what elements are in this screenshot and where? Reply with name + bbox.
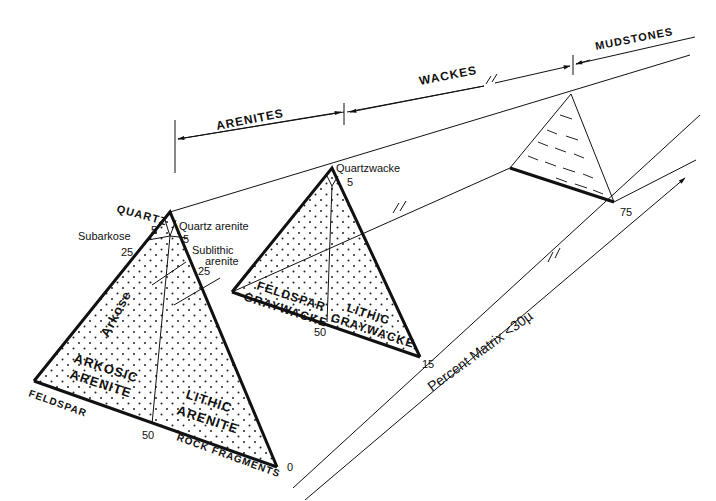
group-arrows	[175, 37, 695, 173]
diagram-canvas: ARENITES WACKES MUDSTONES Percent Matrix…	[0, 0, 716, 501]
mudstones-label: MUDSTONES	[594, 25, 674, 52]
tick-left-5: 5	[151, 224, 157, 236]
arenites-label: ARENITES	[215, 106, 285, 133]
tick-left-25: 25	[121, 246, 133, 258]
sandstone-classification-diagram: ARENITES WACKES MUDSTONES Percent Matrix…	[0, 0, 716, 501]
mudstone-dash-pattern	[528, 115, 603, 194]
field-quartzwacke: Quartzwacke	[336, 162, 400, 174]
right-connector-line	[614, 160, 696, 202]
apex-quartz: QUARTZ	[115, 202, 168, 227]
wackes-arrow-left	[350, 86, 484, 112]
tick-right-5: 5	[183, 233, 189, 245]
axis-tick-0: 0	[287, 461, 293, 473]
axis-tick-75: 75	[620, 206, 632, 218]
field-sublithic-line2: arenite	[205, 255, 239, 267]
axis-tick-15: 15	[422, 358, 434, 370]
tick-base-50: 50	[142, 429, 154, 441]
wackes-arrow-right	[495, 66, 570, 83]
matrix-axis-label: Percent Matrix <30µ	[424, 307, 535, 394]
field-quartz-arenite: Quartz arenite	[179, 220, 249, 232]
field-subarkose: Subarkose	[78, 230, 131, 242]
mudstone-triangle	[510, 94, 614, 202]
axis-break-mark	[548, 248, 560, 262]
tick-top-5: 5	[347, 176, 353, 188]
wackes-label: WACKES	[418, 63, 478, 88]
arenite-triangle	[34, 212, 277, 467]
axis-break-mark	[393, 201, 406, 213]
